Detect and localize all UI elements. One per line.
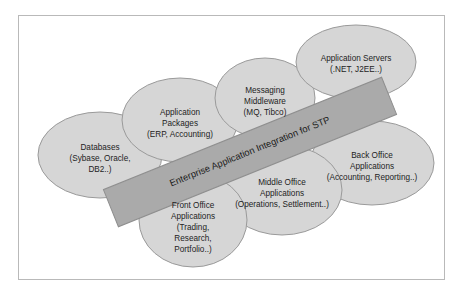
- label-line: (Sybase, Oracle,: [70, 154, 131, 163]
- label-line: Front Office: [172, 201, 215, 210]
- label-line: (MQ, Tibco): [244, 108, 287, 117]
- label-line: (.NET, J2EE..): [330, 65, 382, 74]
- label-line: DB2..): [88, 165, 111, 174]
- label-line: (Accounting, Reporting..): [327, 173, 418, 182]
- label-line: Applications: [350, 162, 394, 171]
- label-line: Applications: [171, 212, 215, 221]
- diagram-root: Enterprise Application Integration for S…: [0, 0, 463, 296]
- label-line: Application: [160, 108, 201, 117]
- label-line: (ERP, Accounting): [147, 130, 213, 139]
- label-line: Packages: [162, 119, 198, 128]
- label-line: Middleware: [244, 97, 286, 106]
- label-line: Middle Office: [258, 178, 306, 187]
- label-line: Messaging: [245, 86, 285, 95]
- label-line: Application Servers: [321, 54, 392, 63]
- label-line: (Operations, Settlement..): [235, 200, 329, 209]
- label-messaging-middleware: MessagingMiddleware(MQ, Tibco): [244, 86, 287, 117]
- label-line: Applications: [260, 189, 304, 198]
- label-line: Portfolio..): [174, 245, 212, 254]
- label-line: (Trading,: [177, 223, 209, 232]
- label-line: Research,: [174, 234, 211, 243]
- label-front-office-applications: Front OfficeApplications(Trading,Researc…: [171, 201, 215, 254]
- label-line: Back Office: [351, 151, 393, 160]
- diagram-canvas: Enterprise Application Integration for S…: [0, 0, 463, 296]
- label-line: Databases: [80, 143, 119, 152]
